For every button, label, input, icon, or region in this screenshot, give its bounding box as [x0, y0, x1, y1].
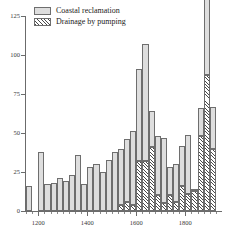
x-tick-label-1400: 1400 — [72, 219, 102, 226]
legend-swatch-coastal-icon — [34, 7, 51, 15]
bar-segment-coastal-1150 — [26, 186, 32, 211]
x-minor-tick-1650 — [149, 212, 150, 214]
x-minor-tick-1500 — [112, 212, 113, 214]
x-minor-tick-1475 — [106, 212, 107, 214]
x-minor-tick-1850 — [198, 212, 199, 214]
x-minor-tick-1725 — [167, 212, 168, 214]
x-minor-tick-1875 — [204, 212, 205, 214]
x-minor-tick-1325 — [69, 212, 70, 214]
y-tick-0 — [21, 211, 25, 212]
y-tick-125 — [21, 16, 25, 17]
x-tick-label-1600: 1600 — [121, 219, 151, 226]
x-tick-1800 — [185, 212, 186, 216]
x-minor-tick-1425 — [93, 212, 94, 214]
x-minor-tick-1450 — [100, 212, 101, 214]
bar-segment-coastal-1800 — [185, 135, 191, 194]
x-minor-tick-1175 — [32, 212, 33, 214]
y-tick-label-125: 125 — [0, 13, 20, 19]
y-tick-label-75: 75 — [0, 91, 20, 97]
x-tick-1400 — [87, 212, 88, 216]
bar-series-group — [26, 16, 222, 211]
x-tick-1200 — [38, 212, 39, 216]
x-minor-tick-1225 — [44, 212, 45, 214]
x-minor-tick-1675 — [155, 212, 156, 214]
bar-segment-coastal-1875 — [204, 0, 210, 75]
x-minor-tick-1775 — [179, 212, 180, 214]
top-partial-text — [2, 0, 122, 4]
x-minor-tick-1900 — [210, 212, 211, 214]
y-tick-label-50: 50 — [0, 130, 20, 136]
x-minor-tick-1525 — [118, 212, 119, 214]
x-minor-tick-1350 — [75, 212, 76, 214]
plot-area — [26, 16, 222, 212]
x-tick-1600 — [136, 212, 137, 216]
x-minor-tick-1575 — [130, 212, 131, 214]
bar-segment-drainage-1900 — [210, 149, 216, 211]
y-tick-75 — [21, 94, 25, 95]
bar-1150 — [26, 186, 32, 211]
y-tick-50 — [21, 133, 25, 134]
x-minor-tick-1275 — [57, 212, 58, 214]
x-minor-tick-1925 — [216, 212, 217, 214]
bar-segment-coastal-1900 — [210, 107, 216, 149]
bar-1900 — [210, 106, 216, 211]
x-minor-tick-1375 — [81, 212, 82, 214]
x-minor-tick-1750 — [173, 212, 174, 214]
x-tick-label-1800: 1800 — [170, 219, 200, 226]
x-minor-tick-1250 — [51, 212, 52, 214]
chart-figure: Coastal reclamation Drainage by pumping … — [0, 0, 234, 240]
x-minor-tick-1700 — [161, 212, 162, 214]
y-tick-label-25: 25 — [0, 169, 20, 175]
y-tick-label-0: 0 — [0, 208, 20, 214]
x-minor-tick-1550 — [124, 212, 125, 214]
y-tick-100 — [21, 55, 25, 56]
legend-item-coastal-reclamation: Coastal reclamation — [34, 5, 126, 16]
x-minor-tick-1625 — [142, 212, 143, 214]
x-minor-tick-1150 — [26, 212, 27, 214]
x-minor-tick-1825 — [191, 212, 192, 214]
y-tick-label-100: 100 — [0, 52, 20, 58]
x-minor-tick-1300 — [63, 212, 64, 214]
legend-label-coastal: Coastal reclamation — [56, 6, 120, 15]
y-tick-25 — [21, 172, 25, 173]
x-tick-label-1200: 1200 — [23, 219, 53, 226]
